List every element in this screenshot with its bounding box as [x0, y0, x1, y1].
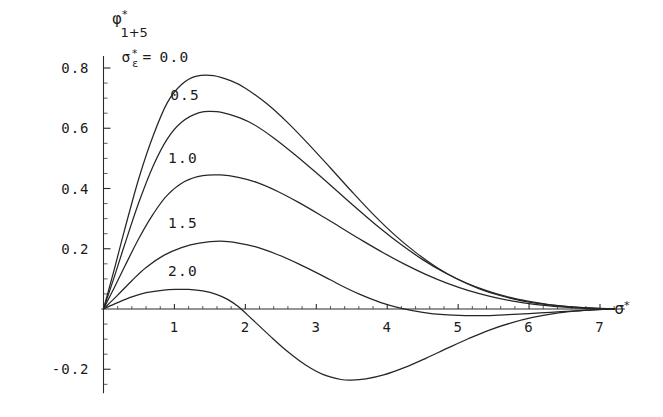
y-tick-label: 0.8	[61, 60, 89, 76]
legend-title: σ*ε=	[121, 47, 152, 69]
y-tick-label: 0.2	[61, 241, 89, 257]
curve-label-0-5: 0.5	[170, 87, 200, 103]
x-axis-tick-labels: 1234567	[170, 319, 605, 335]
x-tick-label: 1	[170, 319, 179, 335]
chart-figure: 1234567 0.80.60.40.2-0.2 0.00.51.01.52.0…	[0, 0, 663, 417]
x-tick-label: 2	[241, 319, 250, 335]
curve-label-0-0: 0.0	[160, 49, 190, 65]
y-axis-tick-labels: 0.80.60.40.2-0.2	[52, 60, 90, 377]
curve-series-labels: 0.00.51.01.52.0σ*ε=	[121, 47, 199, 279]
x-tick-label: 5	[453, 319, 462, 335]
curve-label-2-0: 2.0	[168, 263, 198, 279]
x-tick-label: 3	[312, 319, 321, 335]
curve-label-1-0: 1.0	[168, 150, 198, 166]
y-tick-label: -0.2	[52, 361, 90, 377]
x-axis-title: σ*	[614, 299, 630, 318]
y-axis-title: φ*1+5	[112, 8, 148, 40]
x-tick-label: 7	[595, 319, 604, 335]
y-tick-label: 0.6	[61, 120, 89, 136]
x-tick-label: 4	[382, 319, 391, 335]
x-tick-label: 6	[524, 319, 533, 335]
y-tick-label: 0.4	[61, 181, 89, 197]
curve-label-1-5: 1.5	[168, 215, 198, 231]
line-chart-plot: 1234567 0.80.60.40.2-0.2 0.00.51.01.52.0…	[0, 0, 663, 417]
